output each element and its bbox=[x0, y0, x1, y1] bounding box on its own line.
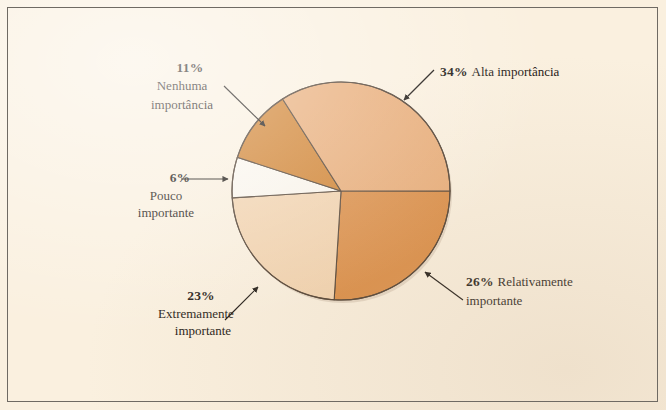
slice-value-nenhuma: 11% bbox=[138, 60, 242, 76]
slice-label-extremamente-line2: importante bbox=[132, 323, 274, 338]
slice-callout-relativamente: 26% Relativamente importante bbox=[466, 272, 636, 310]
slice-callout-pouco: 6% Pouco importante bbox=[112, 170, 220, 220]
slice-value-alta: 34% bbox=[440, 64, 468, 79]
slice-label-nenhuma-line1: Nenhuma bbox=[157, 78, 208, 93]
slice-label-extremamente-line1: Extremamente bbox=[158, 306, 234, 321]
pie-slice-extremamente[interactable] bbox=[232, 191, 341, 300]
slice-label-alta: Alta importância bbox=[472, 64, 560, 79]
slice-label-relativamente-line2: importante bbox=[466, 293, 522, 308]
slice-callout-extremamente: 23% Extremamente importante bbox=[118, 288, 274, 338]
slice-callout-nenhuma: 11% Nenhuma importância bbox=[122, 60, 242, 114]
slice-label-pouco-line1: Pouco bbox=[150, 188, 183, 203]
slice-value-pouco: 6% bbox=[140, 170, 220, 186]
pie-chart-figure: 34% Alta importância 11% Nenhuma importâ… bbox=[0, 0, 666, 410]
pie-slice-relativamente[interactable] bbox=[334, 191, 450, 300]
slice-label-pouco-line2: importante bbox=[112, 205, 220, 220]
leader-arrow-alta bbox=[404, 70, 434, 100]
slice-label-nenhuma-line2: importância bbox=[151, 97, 213, 112]
slice-value-relativamente: 26% bbox=[466, 274, 494, 289]
slice-callout-alta: 34% Alta importância bbox=[440, 62, 610, 81]
slice-value-extremamente: 23% bbox=[128, 288, 274, 304]
slice-label-relativamente-line1: Relativamente bbox=[498, 274, 573, 289]
leader-arrow-relativamente bbox=[425, 272, 463, 300]
